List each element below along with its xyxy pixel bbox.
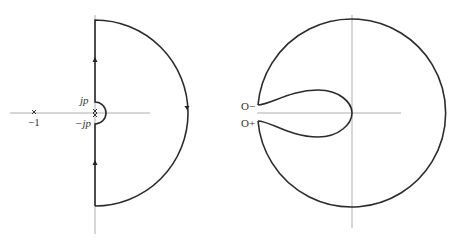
arrow-up-icon bbox=[93, 57, 98, 62]
right-panel-nyquist-plot: O− O+ bbox=[241, 15, 446, 228]
arrow-up-icon bbox=[93, 160, 98, 165]
arrow-down-icon bbox=[185, 106, 190, 110]
left-panel-s-plane: −1 jp −jp bbox=[10, 15, 190, 234]
label-minus-jp: −jp bbox=[75, 117, 91, 129]
label-o-minus: O− bbox=[241, 100, 255, 112]
label-minus-one: −1 bbox=[28, 116, 40, 128]
nyquist-diagram: −1 jp −jp O− O+ bbox=[0, 0, 457, 249]
label-jp: jp bbox=[78, 94, 89, 106]
label-o-plus: O+ bbox=[241, 117, 255, 129]
